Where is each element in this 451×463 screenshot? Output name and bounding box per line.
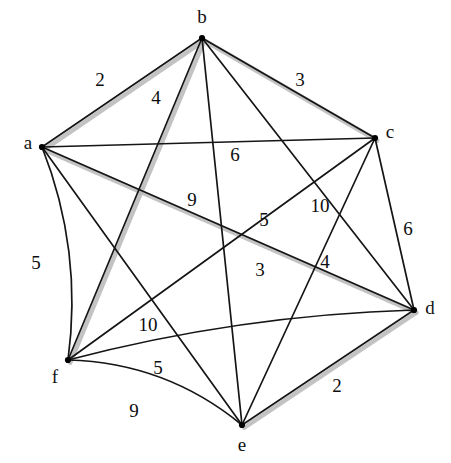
node-e[interactable]: [239, 422, 245, 428]
node-a[interactable]: [39, 144, 45, 150]
node-f[interactable]: [65, 357, 71, 363]
graph-canvas: 23649106453510592 abcdef: [0, 0, 451, 463]
edge-weight-c-d: 6: [403, 218, 413, 239]
edge-weight-a-f: 5: [31, 252, 41, 273]
edge-weight-a-c: 6: [230, 144, 240, 165]
edge-weight-a-d: 3: [255, 259, 265, 280]
edge-b-d[interactable]: [202, 38, 414, 310]
edge-weight-f-e: 9: [129, 400, 139, 421]
edge-weight-b-f: 4: [151, 87, 161, 108]
edge-a-f[interactable]: [42, 147, 72, 360]
node-b[interactable]: [199, 35, 205, 41]
edge-shadow-bc: [204, 41, 377, 141]
edge-b-c[interactable]: [202, 38, 375, 138]
node-label-f: f: [52, 366, 59, 387]
edge-weight-b-d: 10: [311, 195, 330, 216]
edge-weight-a-e: 10: [139, 314, 158, 335]
edge-a-c[interactable]: [42, 138, 375, 147]
edge-f-d[interactable]: [68, 310, 414, 360]
edge-weight-c-e: 4: [320, 251, 330, 272]
edge-shadow-layer: [44, 41, 416, 428]
edge-weight-e-d: 2: [332, 375, 342, 396]
edge-weight-c-f: 5: [259, 209, 269, 230]
edge-weight-b-e: 9: [187, 189, 197, 210]
node-d[interactable]: [411, 307, 417, 313]
node-label-a: a: [24, 132, 33, 153]
node-label-b: b: [197, 6, 207, 27]
weighted-graph-diagram: 23649106453510592 abcdef: [0, 0, 451, 463]
edge-a-b[interactable]: [42, 38, 202, 147]
node-c[interactable]: [372, 135, 378, 141]
edge-weight-f-d: 5: [153, 357, 163, 378]
edge-shadow-ed: [244, 313, 416, 428]
edge-weight-b-c: 3: [295, 69, 305, 90]
node-label-e: e: [238, 434, 246, 455]
edge-weight-a-b: 2: [95, 69, 105, 90]
node-label-c: c: [386, 121, 394, 142]
node-label-d: d: [425, 297, 435, 318]
